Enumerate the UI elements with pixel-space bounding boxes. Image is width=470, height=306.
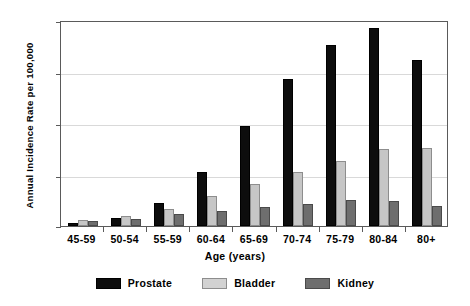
- y-tick-mark-200: [56, 125, 61, 126]
- bar-kidney-70-74: [303, 204, 313, 226]
- legend-swatch-bladder: [202, 278, 227, 289]
- x-tick-label-80+: 80+: [399, 233, 453, 245]
- bar-kidney-65-69: [260, 207, 270, 226]
- bar-prostate-80+: [412, 60, 422, 226]
- bar-prostate-70-74: [283, 79, 293, 226]
- bar-prostate-75-79: [326, 45, 336, 226]
- x-tick-mark: [362, 227, 363, 232]
- y-tick-mark-300: [56, 74, 61, 75]
- bar-group: [111, 22, 141, 226]
- x-tick-mark: [103, 227, 104, 232]
- bar-bladder-80-84: [379, 149, 389, 226]
- bar-prostate-65-69: [240, 126, 250, 226]
- bar-group: [283, 22, 313, 226]
- bar-prostate-60-64: [197, 172, 207, 226]
- bar-bladder-80+: [422, 148, 432, 226]
- bar-kidney-80+: [432, 206, 442, 226]
- bar-prostate-50-54: [111, 218, 121, 226]
- bar-group: [240, 22, 270, 226]
- bar-chart: Annual Incidence Rate per 100,000 400 30…: [0, 0, 470, 306]
- x-tick-mark: [146, 227, 147, 232]
- y-axis-title: Annual Incidence Rate per 100,000: [24, 21, 35, 231]
- bar-group: [197, 22, 227, 226]
- bar-bladder-65-69: [250, 184, 260, 226]
- bar-bladder-45-59: [78, 220, 88, 226]
- legend-label-prostate: Prostate: [128, 277, 172, 289]
- x-axis-title: Age (years): [0, 250, 470, 262]
- x-tick-mark: [319, 227, 320, 232]
- x-tick-mark: [405, 227, 406, 232]
- y-tick-mark-400: [56, 22, 61, 23]
- legend-swatch-kidney: [305, 278, 330, 289]
- bar-group: [154, 22, 184, 226]
- bar-kidney-75-79: [346, 200, 356, 226]
- bar-kidney-55-59: [174, 214, 184, 226]
- bar-group: [369, 22, 399, 226]
- legend-label-bladder: Bladder: [234, 277, 275, 289]
- x-tick-mark: [232, 227, 233, 232]
- y-tick-mark-0: [56, 227, 61, 228]
- bar-prostate-55-59: [154, 203, 164, 226]
- legend-swatch-prostate: [96, 278, 121, 289]
- y-tick-mark-100: [56, 177, 61, 178]
- legend-label-kidney: Kidney: [337, 277, 374, 289]
- bar-group: [68, 22, 98, 226]
- legend-item-kidney: Kidney: [305, 277, 374, 289]
- bar-bladder-55-59: [164, 209, 174, 226]
- bar-prostate-80-84: [369, 28, 379, 226]
- bar-bladder-60-64: [207, 196, 217, 226]
- bar-kidney-45-59: [88, 221, 98, 226]
- x-tick-mark: [189, 227, 190, 232]
- bar-prostate-45-59: [68, 223, 78, 226]
- bar-kidney-80-84: [389, 201, 399, 226]
- plot-area: [60, 21, 448, 227]
- bar-kidney-50-54: [131, 219, 141, 226]
- bar-kidney-60-64: [217, 211, 227, 226]
- bar-bladder-50-54: [121, 216, 131, 226]
- bar-group: [412, 22, 442, 226]
- bar-bladder-75-79: [336, 161, 346, 226]
- legend: Prostate Bladder Kidney: [0, 277, 470, 289]
- bar-bladder-70-74: [293, 172, 303, 226]
- legend-item-prostate: Prostate: [96, 277, 172, 289]
- x-tick-mark: [276, 227, 277, 232]
- legend-item-bladder: Bladder: [202, 277, 275, 289]
- bar-group: [326, 22, 356, 226]
